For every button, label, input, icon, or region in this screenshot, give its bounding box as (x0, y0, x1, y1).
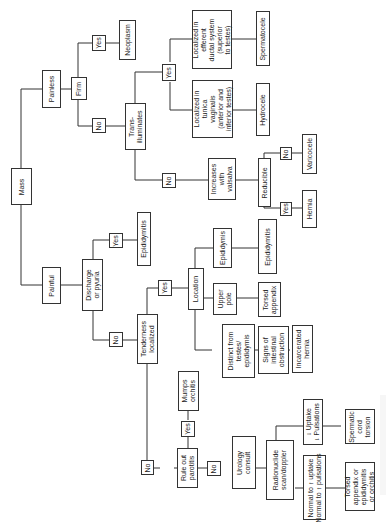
node-label: Reducible (261, 167, 269, 198)
node-label: Mumps orchitis (181, 380, 197, 403)
node-efferent: Localized in efferent ductal system (sup… (192, 10, 232, 69)
node-parotitis-no: No (207, 461, 221, 476)
node-label: Spermatic cord torsion (348, 411, 372, 443)
node-label: Urology consult (236, 450, 252, 474)
node-reducible-yes: Yes (280, 202, 292, 216)
node-radionuclide: Radionuclide scan/doppler (266, 440, 294, 500)
node-label: Tenderness localized (140, 321, 156, 357)
node-label: No (112, 335, 120, 344)
node-label: Yes (184, 423, 192, 434)
node-label: No (165, 176, 173, 185)
node-reducible-no: No (280, 147, 292, 160)
node-loc-epididymis: Epididymis (213, 228, 232, 268)
node-label: Hydrocele (259, 94, 267, 126)
node-parotitis: Rule out parotitis (177, 448, 198, 488)
node-painless: Painless (42, 70, 61, 108)
node-label: Neoplasm (124, 24, 132, 56)
node-label: Spermatocele (259, 17, 267, 60)
node-normal: Normal to ↑ uptake Normal to ↑ pulsation… (303, 455, 326, 520)
node-discharge-yes: Yes (109, 233, 123, 248)
node-label: Yes (112, 235, 120, 246)
node-label: Yes (161, 282, 169, 293)
node-label: Torsed appendix or epididymitis or orchi… (344, 468, 376, 505)
node-mass: Mass (11, 168, 32, 205)
node-distinct: Distinct from testes/ epididymis (222, 324, 255, 378)
node-tender-no: No (141, 460, 154, 475)
node-firm-yes: Yes (92, 35, 106, 51)
node-label: Radionuclide scan/doppler (272, 450, 288, 490)
node-signs-obstruction: Signs of intestinal obstruction (258, 326, 289, 374)
node-label: ↓ Uptake ↓ Pulsations (305, 403, 321, 441)
node-label: Epididymitis (264, 228, 272, 265)
node-reducible: Reducible (258, 158, 271, 207)
node-upper-pole: Upper pole (213, 283, 237, 315)
node-label: No (210, 464, 218, 473)
node-label: Yes (282, 203, 290, 214)
node-torsed-appendix: Torsed appendix (258, 282, 281, 317)
node-firm: Firm (71, 77, 87, 100)
node-torsed-app-epi: Torsed appendix or epididymitis or orchi… (345, 462, 375, 511)
node-trans-no: No (162, 173, 176, 188)
node-label: Epididymitis (140, 220, 148, 257)
node-hernia: Hernia (302, 190, 317, 228)
node-painful: Painful (42, 267, 61, 304)
node-valsalva: Increases with valsalva (208, 158, 236, 200)
node-mumps: Mumps orchitis (178, 371, 199, 411)
node-label: Rule out parotitis (180, 455, 196, 481)
node-neoplasm: Neoplasm (119, 20, 136, 60)
node-label: Painful (48, 275, 56, 296)
node-decreased: ↓ Uptake ↓ Pulsations (303, 399, 323, 445)
node-label: Normal to ↑ uptake Normal to ↑ pulsation… (307, 453, 323, 522)
node-location: Location (188, 268, 204, 310)
node-label: Varicocele (306, 138, 314, 170)
node-label: Yes (165, 67, 173, 78)
node-label: No (95, 121, 103, 130)
figure-caption-faint (380, 395, 386, 495)
node-label: Yes (95, 37, 103, 48)
node-label: Mass (18, 178, 26, 195)
node-incarcerated: Incarcerated hernia (292, 325, 313, 373)
node-firm-no: No (92, 118, 106, 133)
node-label: Upper pole (217, 289, 233, 308)
node-label: Increases with valsalva (210, 164, 234, 194)
node-label: Location (192, 276, 200, 302)
node-spermatic-torsion: Spermatic cord torsion (345, 409, 375, 444)
node-epididymitis-1: Epididymitis (137, 212, 151, 266)
node-discharge-no: No (109, 332, 123, 347)
node-label: Trans- illuminates (128, 110, 144, 143)
node-label: No (282, 149, 290, 158)
node-tender-yes: Yes (158, 280, 172, 296)
node-discharge: Discharge or pyuria (82, 259, 103, 311)
node-spermatocele: Spermatocele (256, 11, 270, 66)
node-label: Epididymis (219, 231, 227, 265)
node-label: Incarcerated hernia (295, 330, 311, 369)
node-hydrocele: Hydrocele (256, 83, 270, 136)
node-trans-yes: Yes (162, 64, 176, 81)
node-label: Signs of intestinal obstruction (262, 333, 286, 367)
node-parotitis-yes: Yes (181, 421, 195, 437)
node-varicocele: Varicocele (302, 134, 317, 174)
node-tenderness: Tenderness localized (137, 314, 158, 364)
node-label: Torsed appendix (262, 285, 278, 313)
node-transilluminates: Trans- illuminates (125, 103, 146, 150)
node-label: Discharge or pyuria (85, 269, 101, 301)
node-urology: Urology consult (232, 436, 256, 489)
node-label: Localized in tunica vaginalis (anterior … (193, 87, 233, 131)
node-label: Localized in efferent ductal system (sup… (192, 18, 232, 61)
node-tunica: Localized in tunica vaginalis (anterior … (192, 80, 233, 138)
node-epididymitis-2: Epididymitis (258, 219, 277, 274)
node-label: Firm (75, 82, 83, 96)
node-label: Distinct from testes/ epididymis (227, 332, 251, 371)
node-label: Hernia (306, 199, 314, 220)
node-label: No (144, 463, 152, 472)
node-label: Painless (48, 76, 56, 102)
